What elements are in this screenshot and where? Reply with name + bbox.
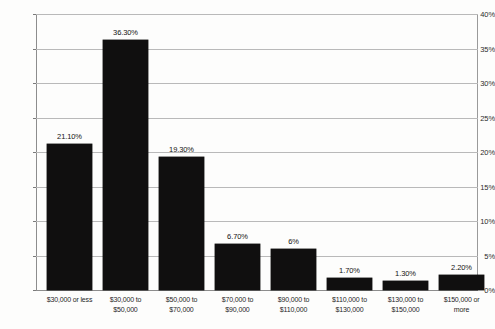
bar: [159, 157, 204, 290]
bar-value-label: 1.70%: [339, 266, 360, 275]
bar-value-label: 6.70%: [227, 232, 248, 241]
bar: [47, 144, 92, 290]
bar-value-label: 36.30%: [113, 28, 138, 37]
bar-value-label: 1.30%: [395, 269, 416, 278]
bar: [103, 40, 148, 290]
bar: [439, 275, 484, 290]
bar-value-label: 2.20%: [451, 263, 472, 272]
bar-value-label: 21.10%: [57, 132, 82, 141]
bar: [383, 281, 428, 290]
gridline: [36, 14, 478, 15]
bar: [215, 244, 260, 290]
plot-area: [36, 14, 478, 290]
bar-value-label: 6%: [288, 237, 299, 246]
bar-chart: 40%35%30%25%20%15%10%5%0% 21.10%36.30%19…: [0, 0, 495, 329]
x-axis-label-line: more: [429, 305, 495, 315]
x-axis-label-line: $150,000 or: [429, 295, 495, 305]
gridline: [36, 290, 478, 291]
bar: [327, 278, 372, 290]
x-axis-category-label: $150,000 ormore: [429, 295, 495, 314]
bar-value-label: 19.30%: [169, 145, 194, 154]
bar: [271, 249, 316, 290]
